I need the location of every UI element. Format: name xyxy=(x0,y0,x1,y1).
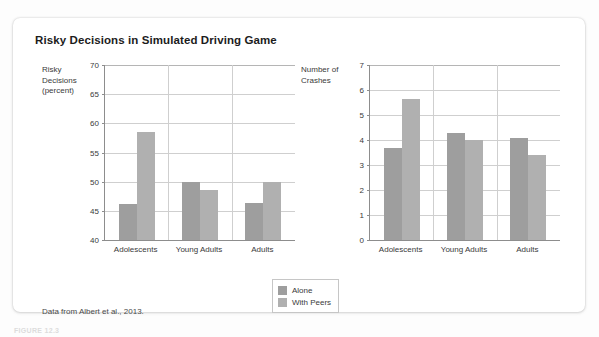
gridline xyxy=(105,65,295,66)
legend-swatch-icon xyxy=(278,286,287,295)
gridline xyxy=(105,123,295,124)
group-divider xyxy=(497,65,498,240)
y-tick-label: 40 xyxy=(77,236,99,245)
y-tick-mark xyxy=(367,165,370,166)
bar xyxy=(245,203,263,240)
gridline xyxy=(105,153,295,154)
x-axis-label: Adults xyxy=(251,245,273,254)
figure-title: Risky Decisions in Simulated Driving Gam… xyxy=(35,34,277,46)
y-tick-mark xyxy=(102,240,105,241)
y-tick-label: 7 xyxy=(342,61,364,70)
y-tick-mark xyxy=(367,190,370,191)
bar xyxy=(447,133,465,241)
y-tick-mark xyxy=(102,182,105,183)
y-tick-label: 0 xyxy=(342,236,364,245)
y-tick-label: 70 xyxy=(77,61,99,70)
y-tick-label: 2 xyxy=(342,186,364,195)
x-axis-label: Young Adults xyxy=(441,245,487,254)
y-tick-mark xyxy=(367,140,370,141)
figure-card: Risky Decisions in Simulated Driving Gam… xyxy=(13,18,585,312)
group-divider xyxy=(232,65,233,240)
y-tick-mark xyxy=(367,65,370,66)
bar xyxy=(402,99,420,240)
bar xyxy=(528,155,546,240)
y-tick-label: 1 xyxy=(342,211,364,220)
y-tick-label: 5 xyxy=(342,111,364,120)
y-tick-label: 6 xyxy=(342,86,364,95)
legend-swatch-icon xyxy=(278,298,287,307)
source-note: Data from Albert et al., 2013. xyxy=(42,307,144,316)
y-tick-mark xyxy=(102,153,105,154)
gridline xyxy=(105,94,295,95)
x-axis-label: Adults xyxy=(516,245,538,254)
bar xyxy=(510,138,528,241)
bar xyxy=(384,148,402,241)
legend-label: With Peers xyxy=(292,298,331,307)
y-tick-mark xyxy=(102,65,105,66)
group-divider xyxy=(433,65,434,240)
y-tick-label: 50 xyxy=(77,178,99,187)
gridline xyxy=(370,65,560,66)
bar xyxy=(119,204,137,240)
bar xyxy=(182,182,200,240)
gridline xyxy=(370,90,560,91)
y-tick-label: 4 xyxy=(342,136,364,145)
x-axis-label: Adolescents xyxy=(379,245,423,254)
figure-caption: FIGURE 12.3 xyxy=(14,327,59,334)
chart-number-of-crashes: Number of Crashes01234567AdolescentsYoun… xyxy=(301,65,565,264)
x-axis-label: Adolescents xyxy=(114,245,158,254)
y-tick-mark xyxy=(102,211,105,212)
y-tick-mark xyxy=(367,90,370,91)
y-tick-mark xyxy=(102,123,105,124)
y-tick-label: 45 xyxy=(77,207,99,216)
bar xyxy=(200,190,218,240)
chart-legend: AloneWith Peers xyxy=(272,279,339,313)
y-tick-label: 55 xyxy=(77,149,99,158)
y-tick-label: 60 xyxy=(77,119,99,128)
risky-decisions-plot-area xyxy=(104,65,295,241)
legend-label: Alone xyxy=(292,286,312,295)
bar xyxy=(137,132,155,241)
number-of-crashes-plot-area xyxy=(369,65,560,241)
y-tick-mark xyxy=(102,94,105,95)
chart-risky-decisions: Risky Decisions (percent)40455055606570A… xyxy=(42,65,300,264)
y-tick-mark xyxy=(367,115,370,116)
y-tick-mark xyxy=(367,240,370,241)
legend-item: With Peers xyxy=(278,296,331,308)
y-tick-mark xyxy=(367,215,370,216)
x-axis-label: Young Adults xyxy=(176,245,222,254)
legend-item: Alone xyxy=(278,284,331,296)
y-tick-label: 3 xyxy=(342,161,364,170)
y-tick-label: 65 xyxy=(77,90,99,99)
bar xyxy=(263,182,281,240)
bar xyxy=(465,140,483,240)
group-divider xyxy=(168,65,169,240)
gridline xyxy=(370,115,560,116)
